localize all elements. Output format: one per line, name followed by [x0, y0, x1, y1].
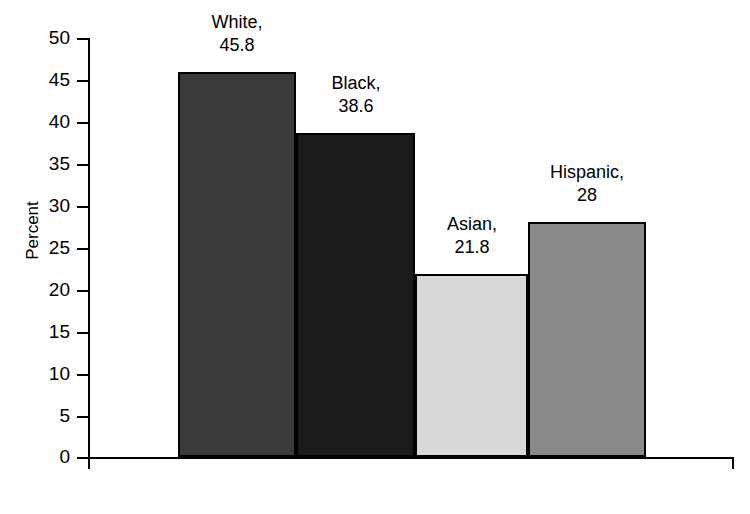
bar-label-asian-value: 21.8 — [402, 236, 542, 259]
y-tick-group-40: 40 — [0, 122, 88, 124]
y-tick-label: 5 — [30, 406, 70, 425]
bar-hispanic[interactable] — [528, 222, 646, 457]
bar-asian[interactable] — [415, 274, 528, 457]
y-tick-label: 10 — [30, 364, 70, 383]
y-tick-mark — [77, 122, 88, 124]
bar-label-black-name: Black, — [286, 72, 426, 95]
y-tick-mark — [77, 290, 88, 292]
bar-black[interactable] — [296, 133, 415, 457]
y-tick-mark — [77, 164, 88, 166]
bar-label-hispanic-name: Hispanic, — [517, 161, 657, 184]
y-tick-group-0: 0 — [0, 457, 88, 459]
y-tick-mark — [77, 416, 88, 418]
y-tick-mark — [77, 38, 88, 40]
x-axis-end-tick — [732, 457, 734, 469]
bar-chart: Percent 50 45 40 35 30 25 20 15 10 5 — [0, 0, 750, 514]
x-axis-start-tick — [88, 457, 90, 469]
y-tick-group-30: 30 — [0, 206, 88, 208]
y-tick-label: 0 — [30, 447, 70, 466]
y-tick-group-50: 50 — [0, 38, 88, 40]
bar-label-white-name: White, — [167, 11, 307, 34]
bar-label-hispanic: Hispanic, 28 — [517, 161, 657, 207]
y-tick-group-15: 15 — [0, 332, 88, 334]
y-tick-group-10: 10 — [0, 374, 88, 376]
bar-label-black-value: 38.6 — [286, 95, 426, 118]
x-axis-line — [88, 457, 734, 459]
y-tick-group-5: 5 — [0, 416, 88, 418]
y-tick-group-45: 45 — [0, 80, 88, 82]
y-tick-label: 20 — [30, 280, 70, 299]
bar-label-white-value: 45.8 — [167, 34, 307, 57]
y-tick-mark — [77, 80, 88, 82]
y-tick-group-25: 25 — [0, 248, 88, 250]
bar-label-hispanic-value: 28 — [517, 184, 657, 207]
y-tick-mark — [77, 457, 88, 459]
y-tick-group-35: 35 — [0, 164, 88, 166]
bar-label-white: White, 45.8 — [167, 11, 307, 57]
y-tick-label: 50 — [30, 28, 70, 47]
bar-label-black: Black, 38.6 — [286, 72, 426, 118]
bar-white[interactable] — [178, 72, 296, 457]
y-tick-label: 35 — [30, 154, 70, 173]
y-tick-label: 45 — [30, 70, 70, 89]
y-tick-mark — [77, 206, 88, 208]
bar-label-asian: Asian, 21.8 — [402, 213, 542, 259]
y-tick-label: 15 — [30, 322, 70, 341]
bar-label-asian-name: Asian, — [402, 213, 542, 236]
y-tick-label: 25 — [30, 238, 70, 257]
y-tick-mark — [77, 248, 88, 250]
y-axis-line — [88, 38, 90, 459]
y-tick-mark — [77, 374, 88, 376]
y-tick-group-20: 20 — [0, 290, 88, 292]
y-tick-mark — [77, 332, 88, 334]
y-tick-label: 40 — [30, 112, 70, 131]
y-tick-label: 30 — [30, 196, 70, 215]
